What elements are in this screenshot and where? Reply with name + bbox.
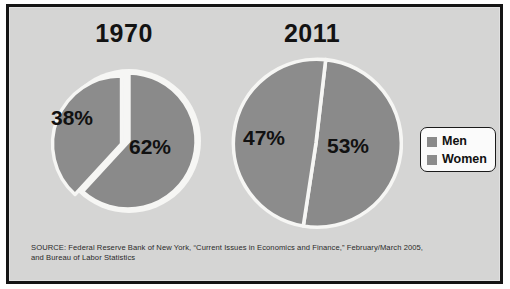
source-note: SOURCE: Federal Reserve Bank of New York…	[31, 243, 451, 264]
legend-item-women: Women	[427, 151, 495, 168]
legend-label-women: Women	[442, 153, 487, 166]
pie-1970-label-women: 38%	[51, 106, 93, 130]
legend-swatch-men-icon	[427, 137, 437, 147]
pie-title-2011: 2011	[249, 20, 375, 46]
source-note-line-2: and Bureau of Labor Statistics	[31, 253, 451, 263]
chart-figure: 1970 2011 38% 62%	[0, 0, 510, 289]
pie-1970-label-men: 62%	[129, 135, 171, 159]
source-note-line-1: SOURCE: Federal Reserve Bank of New York…	[31, 243, 451, 253]
pie-2011-label-women: 47%	[243, 126, 285, 150]
legend-item-men: Men	[427, 133, 495, 150]
pie-title-1970: 1970	[61, 20, 187, 46]
pie-2011-label-men: 53%	[327, 134, 369, 158]
figure-frame: 1970 2011 38% 62%	[6, 4, 503, 284]
pie-chart-1970	[47, 53, 205, 228]
legend-label-men: Men	[442, 135, 467, 148]
legend: Men Women	[420, 127, 496, 172]
legend-swatch-women-icon	[427, 155, 437, 165]
